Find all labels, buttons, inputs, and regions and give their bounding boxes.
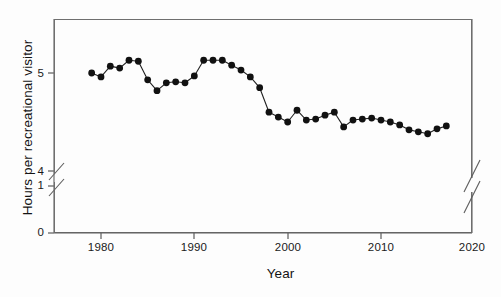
x-axis-title-text: Year [207, 266, 295, 281]
xtick-label-2000: 2000 [263, 241, 313, 253]
xtick-label-2010: 2010 [356, 241, 406, 253]
xtick-label-1990: 1990 [169, 241, 219, 253]
chart-figure: 5 4 1 0 1980 1990 2000 2010 2020 Hours p… [0, 0, 501, 297]
xtick-label-1980: 1980 [76, 241, 126, 253]
xtick-label-2020: 2020 [447, 241, 497, 253]
y-axis-title: Hours per recreational visitor [20, 13, 35, 243]
plot-area-frame [54, 19, 472, 233]
x-axis-title: Year [0, 266, 501, 281]
